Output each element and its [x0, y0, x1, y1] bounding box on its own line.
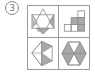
- figure-top-left: [28, 6, 59, 38]
- figure-top-right: [59, 6, 89, 38]
- figure-grid: [27, 5, 90, 70]
- hexagon-triangles-icon: [59, 38, 89, 69]
- staircase-squares-icon: [59, 6, 89, 37]
- question-number: 3: [5, 1, 19, 15]
- star-figure-icon: [28, 6, 58, 37]
- figure-bottom-left: [28, 38, 59, 69]
- polygon-fan-icon: [28, 38, 58, 69]
- figure-bottom-right: [59, 38, 89, 69]
- question-number-text: 3: [9, 3, 15, 13]
